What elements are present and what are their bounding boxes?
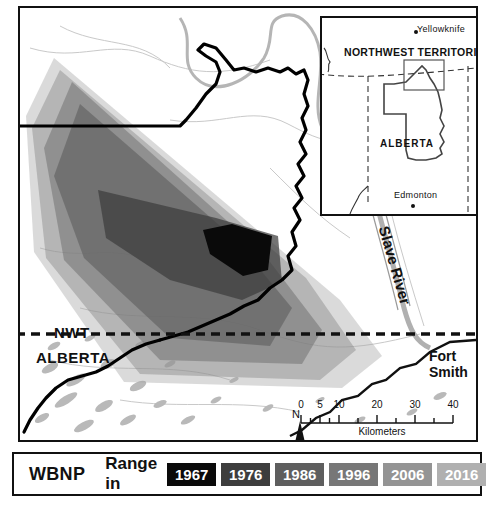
label-nwt: NWT (54, 324, 90, 341)
scale-tick-5: 5 (317, 399, 323, 410)
scale-tick-10: 10 (333, 399, 344, 410)
scale-bar-units: Kilometers (358, 426, 405, 437)
label-edmonton: Edmonton (394, 190, 437, 200)
legend-park-label: WBNP (29, 464, 85, 485)
legend-swatch-2006: 2006 (383, 463, 432, 486)
label-northwest-territories: NORTHWEST TERRITORIES (344, 46, 478, 58)
inset-map[interactable]: NORTHWEST TERRITORIES ALBERTA Yellowknif… (320, 16, 478, 216)
scale-tick-20: 20 (371, 399, 382, 410)
map-legend: WBNP Range in 196719761986199620062016 (12, 452, 482, 496)
scale-bar: 0510203040 Kilometers (300, 412, 465, 424)
label-alberta-inset: ALBERTA (380, 138, 434, 149)
legend-swatch-1996: 1996 (329, 463, 378, 486)
label-fort-smith: Fort Smith (429, 348, 476, 380)
main-map[interactable]: NWT ALBERTA Fort Smith Slave River N (18, 6, 478, 442)
label-yellowknife: Yellowknife (417, 24, 465, 34)
map-page: NWT ALBERTA Fort Smith Slave River N (0, 0, 490, 506)
legend-swatch-1986: 1986 (275, 463, 324, 486)
inset-extent-box (404, 60, 444, 90)
scale-tick-30: 30 (409, 399, 420, 410)
scale-bar-graphic (300, 414, 465, 426)
legend-swatch-1976: 1976 (221, 463, 270, 486)
label-alberta: ALBERTA (36, 349, 110, 366)
yellowknife-point-marker (414, 30, 418, 34)
legend-swatch-list: 196719761986199620062016 (167, 463, 486, 486)
legend-swatch-1967: 1967 (167, 463, 216, 486)
legend-swatch-2016: 2016 (437, 463, 486, 486)
inset-bc-edge (324, 48, 368, 214)
legend-range-label: Range in (105, 454, 157, 494)
edmonton-point-marker (411, 204, 415, 208)
scale-tick-40: 40 (447, 399, 458, 410)
scale-bar-ticks: 0510203040 (300, 412, 465, 424)
scale-tick-0: 0 (298, 399, 304, 410)
fort-smith-point-marker (476, 338, 478, 345)
